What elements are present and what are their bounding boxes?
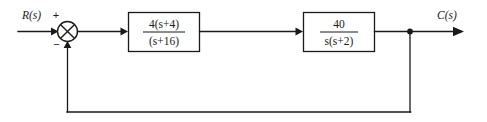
block-diagram-canvas: R(s) C(s) + − 4(s+4) (s+16) 40 s(s+2) [0, 0, 487, 122]
controlled-output-label: C(s) [437, 9, 457, 22]
arrowhead-into-block2 [296, 28, 304, 36]
arrowhead-into-block1 [121, 28, 129, 36]
compensator-numerator: 4(s+4) [149, 18, 179, 31]
sum-minus-sign: − [53, 38, 59, 50]
plant-numerator: 40 [333, 18, 345, 30]
arrowhead-output [453, 27, 464, 36]
reference-input-label: R(s) [21, 9, 41, 22]
sum-plus-sign: + [53, 9, 59, 21]
plant-numerator-text: 40 [333, 18, 345, 30]
block-diagram-svg: R(s) C(s) + − 4(s+4) (s+16) 40 s(s+2) [0, 0, 487, 122]
compensator-denominator-text: (s+16) [149, 35, 179, 48]
plant-denominator-text: s(s+2) [325, 35, 354, 48]
compensator-numerator-text: 4(s+4) [149, 18, 179, 31]
arrowhead-into-sum-feedback [64, 41, 72, 48]
plant-denominator: s(s+2) [325, 35, 354, 48]
compensator-denominator: (s+16) [149, 35, 179, 48]
